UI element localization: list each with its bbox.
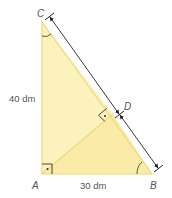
tick-d — [115, 111, 124, 118]
triangle — [42, 22, 152, 174]
label-c: C — [37, 8, 45, 19]
label-side-ac: 40 dm — [9, 93, 35, 104]
tick-c — [45, 13, 54, 20]
label-b: B — [150, 180, 157, 191]
triangle-diagram: C D A B 40 dm 30 dm — [0, 0, 172, 198]
label-side-ab: 30 dm — [80, 180, 106, 191]
label-d: D — [124, 101, 131, 112]
tick-b — [154, 165, 163, 172]
label-a: A — [31, 180, 39, 191]
